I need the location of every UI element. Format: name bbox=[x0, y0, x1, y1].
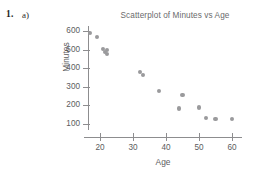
figure-page: 1. a) Scatterplot of Minutes vs Age 1002… bbox=[0, 0, 255, 175]
data-point bbox=[95, 35, 99, 39]
x-tick-label: 50 bbox=[188, 143, 210, 152]
x-axis-title: Age bbox=[88, 157, 238, 167]
data-point bbox=[204, 116, 208, 120]
x-tick-label: 30 bbox=[122, 143, 144, 152]
x-tick-mark bbox=[100, 133, 101, 141]
x-axis-line bbox=[84, 137, 242, 138]
data-point bbox=[177, 106, 181, 110]
data-point bbox=[197, 105, 201, 109]
x-tick-mark bbox=[166, 133, 167, 141]
y-axis-title: Minutes bbox=[61, 29, 71, 85]
y-tick-mark bbox=[83, 124, 90, 125]
x-tick-mark bbox=[232, 133, 233, 141]
x-tick-mark bbox=[199, 133, 200, 141]
x-tick-mark bbox=[133, 133, 134, 141]
data-point bbox=[213, 117, 217, 121]
scatterplot-figure: Scatterplot of Minutes vs Age 1002003004… bbox=[0, 0, 255, 175]
chart-title: Scatterplot of Minutes vs Age bbox=[95, 11, 255, 20]
x-tick-label: 40 bbox=[155, 143, 177, 152]
y-tick-label: 100 bbox=[56, 120, 80, 128]
y-tick-label-wrap: 100 bbox=[56, 120, 82, 128]
plot-area bbox=[88, 31, 238, 124]
y-tick-label: 200 bbox=[56, 101, 80, 109]
x-tick-label: 60 bbox=[221, 143, 243, 152]
y-tick-label-wrap: 200 bbox=[56, 101, 82, 109]
data-point bbox=[105, 52, 109, 56]
x-tick-label: 20 bbox=[89, 143, 111, 152]
